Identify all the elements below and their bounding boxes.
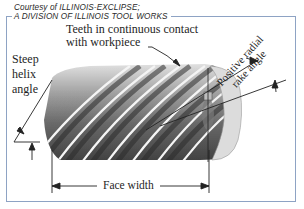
figure: Courtesy of ILLINOIS-EXCLIPSE; A DIVISIO… — [0, 0, 304, 209]
teeth-contact-label: Teeth in continuous contact with workpie… — [66, 23, 198, 49]
helix-label-line-3: angle — [12, 82, 39, 97]
helix-label-line-1: Steep — [12, 52, 39, 67]
face-width-label: Face width — [100, 179, 157, 192]
teeth-label-line-2: with workpiece — [66, 36, 198, 49]
helix-label-line-2: helix — [12, 67, 39, 82]
helix-angle-label: Steep helix angle — [12, 52, 39, 97]
teeth-leader-arrow — [148, 47, 180, 66]
